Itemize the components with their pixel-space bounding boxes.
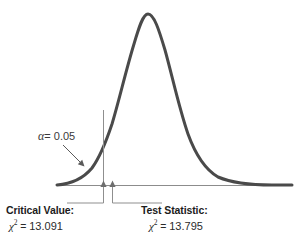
critical-value-title: Critical Value: bbox=[6, 204, 74, 216]
test-statistic-callout: Test Statistic: χ2 = 13.795 bbox=[141, 204, 208, 232]
test-statistic-title: Test Statistic: bbox=[141, 204, 208, 216]
alpha-annotation: α= 0.05 bbox=[38, 130, 75, 144]
equals-sign: = bbox=[20, 220, 26, 232]
test-statistic-expression: χ2 = 13.795 bbox=[149, 218, 208, 232]
chi-superscript: 2 bbox=[154, 218, 158, 227]
equals-sign: = bbox=[160, 220, 166, 232]
chi-square-density-curve bbox=[57, 14, 292, 185]
test-statistic-arrow-icon bbox=[109, 181, 115, 188]
test-statistic-number: 13.795 bbox=[169, 220, 203, 232]
critical-value-expression: χ2 = 13.091 bbox=[9, 218, 74, 232]
chi-square-hypothesis-test-figure: α= 0.05 Critical Value: χ2 = 13.091 Test… bbox=[0, 0, 295, 239]
critical-value-leader-line bbox=[67, 187, 104, 203]
chi-superscript: 2 bbox=[14, 218, 18, 227]
test-statistic-leader-line bbox=[113, 187, 163, 203]
critical-value-callout: Critical Value: χ2 = 13.091 bbox=[6, 204, 74, 232]
alpha-pointer-line bbox=[63, 145, 82, 164]
alpha-value-text: = 0.05 bbox=[44, 130, 75, 142]
critical-value-number: 13.091 bbox=[29, 220, 63, 232]
critical-value-arrow-icon bbox=[100, 181, 106, 188]
